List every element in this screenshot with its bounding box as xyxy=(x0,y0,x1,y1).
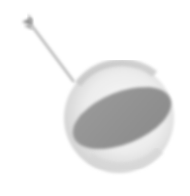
arrow-icon xyxy=(22,14,74,82)
sphere-arrow-illustration xyxy=(0,0,190,196)
